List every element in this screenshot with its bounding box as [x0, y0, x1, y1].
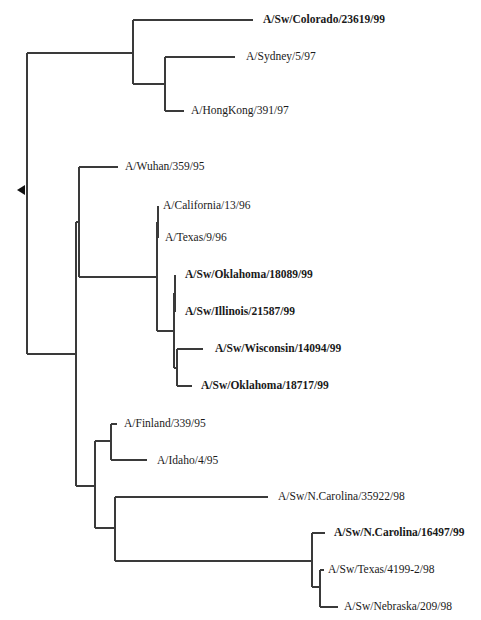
- leaf-label-wisconsin: A/Sw/Wisconsin/14094/99: [215, 343, 341, 355]
- leaf-label-colorado: A/Sw/Colorado/23619/99: [263, 14, 385, 26]
- leaf-label-wuhan: A/Wuhan/359/95: [125, 161, 204, 173]
- leaf-label-nebraska: A/Sw/Nebraska/209/98: [344, 601, 452, 613]
- leaf-label-texas98: A/Sw/Texas/4199-2/98: [328, 564, 435, 576]
- leaf-label-oklahoma1: A/Sw/Oklahoma/18089/99: [185, 269, 313, 281]
- left-arrow-icon: [17, 185, 25, 195]
- leaf-label-illinois: A/Sw/Illinois/21587/99: [185, 306, 295, 318]
- leaf-label-oklahoma2: A/Sw/Oklahoma/18717/99: [201, 380, 329, 392]
- leaf-label-ncarolina1: A/Sw/N.Carolina/35922/98: [278, 491, 405, 503]
- leaf-label-finland: A/Finland/339/95: [124, 418, 206, 430]
- leaf-label-idaho: A/Idaho/4/95: [157, 455, 218, 467]
- leaf-label-ncarolina2: A/Sw/N.Carolina/16497/99: [334, 527, 464, 539]
- leaf-label-hongkong: A/HongKong/391/97: [191, 105, 289, 117]
- leaf-label-california: A/California/13/96: [163, 200, 251, 212]
- leaf-label-sydney: A/Sydney/5/97: [246, 51, 316, 63]
- leaf-label-texas96: A/Texas/9/96: [165, 232, 227, 244]
